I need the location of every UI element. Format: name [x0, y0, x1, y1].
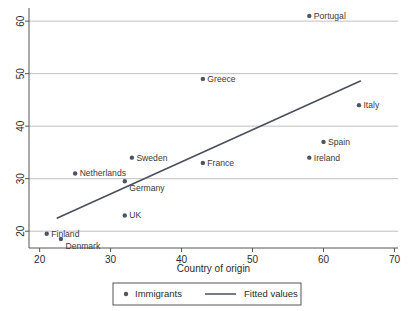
- x-tick-label-70: 70: [389, 254, 401, 265]
- data-point-uk[interactable]: [123, 213, 127, 217]
- data-point-finland[interactable]: [45, 232, 49, 236]
- data-point-label-sweden: Sweden: [136, 153, 167, 163]
- data-point-label-france: France: [207, 158, 234, 168]
- legend-label-fitted-values[interactable]: Fitted values: [244, 288, 298, 299]
- data-point-label-finland: Finland: [51, 229, 79, 239]
- data-point-sweden[interactable]: [130, 155, 134, 159]
- data-point-portugal[interactable]: [307, 14, 311, 18]
- x-tick-label-20: 20: [34, 254, 46, 265]
- scatter-chart: 2030405060 203040506070 PortugalGreeceIt…: [0, 0, 409, 311]
- data-point-ireland[interactable]: [307, 155, 311, 159]
- data-point-label-ireland: Ireland: [314, 153, 340, 163]
- data-point-france[interactable]: [201, 161, 205, 165]
- legend-dot-marker-icon: [124, 292, 128, 296]
- data-point-greece[interactable]: [201, 77, 205, 81]
- data-point-germany[interactable]: [123, 179, 127, 183]
- x-axis-title-text: Country of origin: [177, 263, 250, 274]
- y-tick-label-30: 30: [16, 173, 27, 185]
- x-tick-label-60: 60: [318, 254, 330, 265]
- chart-canvas: 2030405060 203040506070 PortugalGreeceIt…: [0, 0, 409, 311]
- data-point-label-portugal: Portugal: [314, 11, 346, 21]
- data-point-netherlands[interactable]: [73, 171, 77, 175]
- data-point-label-spain: Spain: [328, 137, 350, 147]
- y-tick-label-50: 50: [16, 68, 27, 80]
- data-point-label-netherlands: Netherlands: [80, 168, 126, 178]
- data-point-italy[interactable]: [357, 103, 361, 107]
- data-point-denmark[interactable]: [59, 237, 63, 241]
- data-point-label-uk: UK: [129, 210, 141, 220]
- data-point-spain[interactable]: [321, 140, 325, 144]
- y-tick-label-60: 60: [16, 15, 27, 27]
- x-axis-title: Country of origin: [177, 263, 250, 274]
- data-point-label-greece: Greece: [207, 74, 235, 84]
- data-point-label-germany: Germany: [129, 183, 165, 193]
- legend-label-immigrants[interactable]: Immigrants: [135, 288, 182, 299]
- data-point-label-denmark: Denmark: [65, 241, 101, 251]
- y-tick-label-40: 40: [16, 120, 27, 132]
- y-tick-label-20: 20: [16, 225, 27, 237]
- data-point-label-italy: Italy: [363, 100, 379, 110]
- x-tick-label-30: 30: [105, 254, 117, 265]
